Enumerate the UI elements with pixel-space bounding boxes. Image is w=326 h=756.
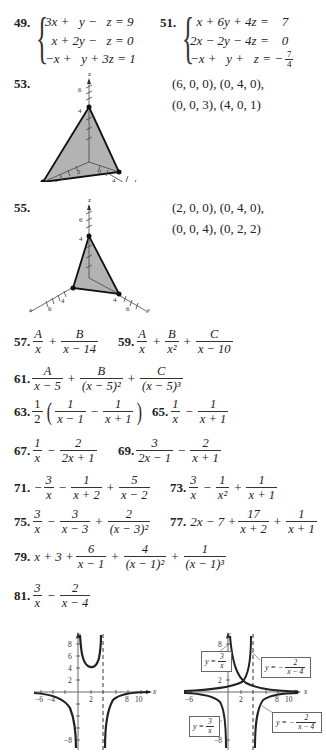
equation-line: x + 2y − z = 0	[45, 32, 136, 51]
plane-triangle	[73, 236, 119, 294]
problem-number: 59.	[118, 334, 134, 350]
problem-number: 57.	[14, 334, 30, 350]
points-line: (0, 0, 3), (4, 0, 1)	[172, 94, 264, 115]
problem-63: 63. 12 ( 1x − 1 − 1x + 1 )	[14, 397, 144, 426]
tick-label: 8	[125, 695, 129, 704]
curve-middle-branch	[80, 635, 101, 667]
problem-49-number: 49.	[14, 15, 30, 31]
tick-label: 8	[218, 640, 222, 649]
tick-label: 10	[285, 695, 293, 704]
equation-line: −x + y + z = −	[190, 50, 283, 69]
points-line: (6, 0, 0), (0, 4, 0),	[172, 73, 264, 94]
x-axis-label: x	[303, 687, 308, 696]
problem-number: 61.	[14, 371, 30, 387]
problem-55-points: (2, 0, 0), (0, 4, 0), (0, 0, 4), (0, 2, …	[172, 197, 264, 239]
tick-label: 2	[77, 168, 81, 176]
equation-line: −x + y + 3z = 1	[45, 50, 136, 69]
z-axis-label: z	[88, 196, 91, 204]
problem-53-points: (6, 0, 0), (0, 4, 0), (0, 0, 3), (4, 0, …	[172, 73, 264, 115]
x-axis-label: x	[28, 306, 33, 314]
problem-number: 63.	[14, 404, 30, 420]
problem-number: 67.	[14, 443, 30, 459]
problem-61: 61. Ax − 5 + B(x − 5)² + C(x − 5)³	[14, 364, 185, 393]
label-y-equals-3-over-x-lower: y = 3x	[189, 716, 220, 737]
equation-line: 2x − 2y − 4z = 0	[190, 32, 295, 51]
tick-label: 10	[135, 695, 143, 704]
problem-number: 69.	[118, 443, 134, 459]
equation-line: 3x + y − z = 9	[45, 13, 136, 32]
graph-rational-function: y x −6 −4 2 8 10 8 6 4 2 −8	[20, 630, 160, 756]
tick-label: −8	[214, 736, 222, 745]
points-line: (2, 0, 0), (0, 4, 0),	[172, 197, 264, 218]
problem-49-system: 3x + y − z = 9 x + 2y − z = 0 −x + y + 3…	[45, 13, 136, 69]
problem-number: 65.	[152, 404, 168, 420]
problem-number: 71.	[14, 480, 30, 496]
problem-65: 65. 1x − 1x + 1	[152, 397, 230, 426]
problem-77: 77. 2x − 7 + 17x + 2 + 1x + 1	[170, 507, 319, 536]
y-axis-label: y	[76, 630, 81, 639]
problem-number: 77.	[170, 514, 186, 530]
tick-label: 6	[78, 86, 82, 94]
tick-label: 2	[239, 695, 243, 704]
equation-line: x + 6y + 4z = 7	[190, 13, 295, 32]
graph-component-functions: y x −6 2 8 10 8 2 −8	[170, 630, 326, 756]
problem-59: 59. Ax + Bx² + Cx − 10	[118, 327, 235, 356]
problem-69: 69. 32x − 1 − 2x + 1	[118, 436, 223, 465]
points-line: (0, 0, 4), (0, 2, 2)	[172, 218, 264, 239]
tick-label: 4	[113, 296, 117, 304]
tick-label: −8	[64, 736, 72, 745]
problem-number: 73.	[170, 480, 186, 496]
z-axis-label: z	[88, 70, 91, 78]
tick-label: 6	[126, 305, 130, 313]
tick-label: −6	[35, 695, 43, 704]
tick-label: 8	[275, 695, 279, 704]
problem-81: 81. 3x − 2x − 4	[14, 581, 92, 610]
tick-label: 6	[79, 216, 83, 224]
tick-label: 6	[48, 305, 52, 313]
tick-label: 4	[79, 235, 83, 243]
tick-label: 2	[218, 676, 222, 685]
y-axis-label: y	[146, 306, 151, 314]
problem-number: 75.	[14, 514, 30, 530]
fraction-denominator: 4	[285, 59, 294, 69]
problem-79: 79. x + 3 + 6x − 1 + 4(x − 1)² + 1(x − 1…	[14, 542, 228, 571]
tick-label: 2	[89, 695, 93, 704]
tick-label: 2	[68, 676, 72, 685]
problem-51-number: 51.	[160, 15, 176, 31]
problem-73: 73. 3x − 1x² + 1x + 1	[170, 473, 279, 502]
problem-71: 71. − 3x − 1x + 2 + 5x − 2	[14, 473, 152, 502]
tick-label: 4	[78, 107, 82, 115]
problem-53-3d-plane-figure: z 6 4 2 2 6 4 6 x y	[20, 70, 160, 182]
label-y-equals-3-over-x-upper: y = 3x	[201, 651, 232, 672]
problem-75: 75. 3x − 3x − 3 + 2(x − 3)²	[14, 507, 152, 536]
tick-label: 6	[68, 652, 72, 661]
fraction-numerator: 7	[285, 50, 294, 59]
tick-label: 4	[61, 297, 65, 305]
tick-label: 4	[68, 664, 72, 673]
problem-55-3d-plane-figure: z 6 4 4 6 4 6 x y	[20, 196, 160, 314]
problem-number: 79.	[14, 549, 30, 565]
tick-label: −4	[47, 695, 55, 704]
tick-label: 8	[68, 640, 72, 649]
problem-51-system: x + 6y + 4z = 7 2x − 2y − 4z = 0 −x + y …	[190, 13, 295, 69]
problem-57: 57. Ax + Bx − 14	[14, 327, 100, 356]
problem-number: 81.	[14, 588, 30, 604]
tick-label: 4	[112, 177, 116, 182]
x-axis-label: x	[152, 687, 157, 696]
problem-67: 67. 1x − 22x + 1	[14, 436, 99, 465]
label-y-equals-neg-2-over-x-4-upper: y = − 2x − 4	[261, 657, 311, 678]
tick-label: 2	[98, 168, 102, 176]
tick-label: −6	[185, 695, 193, 704]
label-y-equals-neg-2-over-x-4-lower: y = − 2x − 4	[272, 712, 322, 733]
y-axis-label: y	[226, 630, 231, 639]
